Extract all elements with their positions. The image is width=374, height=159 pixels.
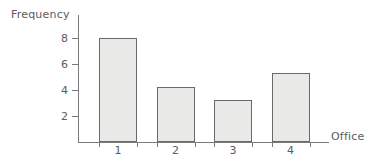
x-tick-label: 4: [279, 145, 303, 157]
y-axis-line: [78, 15, 79, 143]
y-tick-mark: [72, 90, 79, 91]
y-axis-label: Frequency: [11, 8, 70, 21]
x-tick-mark: [252, 142, 253, 147]
x-tick-mark: [137, 142, 138, 147]
y-tick-label: 6: [50, 59, 68, 70]
x-tick-mark: [310, 142, 311, 147]
x-axis-line: [78, 142, 329, 143]
y-tick-mark: [72, 38, 79, 39]
y-tick-mark: [72, 64, 79, 65]
x-tick-mark: [214, 142, 215, 147]
bar: [272, 73, 310, 142]
bar: [157, 87, 195, 142]
y-tick-label: 4: [50, 85, 68, 96]
y-tick-mark: [72, 116, 79, 117]
bar: [99, 38, 137, 142]
x-tick-mark: [195, 142, 196, 147]
x-axis-label: Office: [331, 130, 364, 143]
x-tick-label: 1: [106, 145, 130, 157]
x-tick-mark: [99, 142, 100, 147]
y-tick-label: 8: [50, 33, 68, 44]
x-tick-mark: [157, 142, 158, 147]
x-tick-label: 2: [164, 145, 188, 157]
x-tick-mark: [272, 142, 273, 147]
bar-chart: Frequency Office 8642 1234: [0, 0, 374, 159]
bar: [214, 100, 252, 142]
x-tick-label: 3: [221, 145, 245, 157]
y-tick-label: 2: [50, 111, 68, 122]
